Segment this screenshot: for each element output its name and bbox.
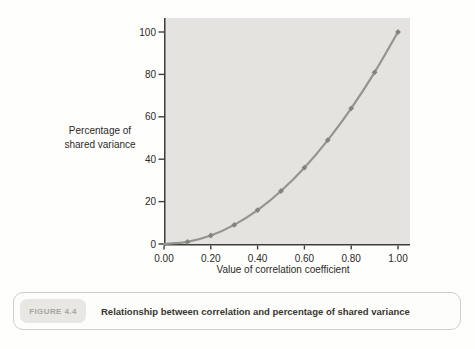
x-tick-label: 0.80 xyxy=(341,253,361,264)
figure-number-badge: FIGURE 4.4 xyxy=(20,299,86,323)
figure-panel: 0204060801000.000.200.400.600.801.00 Per… xyxy=(0,0,475,349)
x-axis-title: Value of correlation coefficient xyxy=(168,264,398,275)
y-tick-label: 40 xyxy=(145,154,157,165)
y-tick-label: 80 xyxy=(145,69,157,80)
plot-area xyxy=(164,18,410,245)
x-tick-label: 0.20 xyxy=(201,253,221,264)
y-tick-label: 20 xyxy=(145,196,157,207)
figure-caption-text: Relationship between correlation and per… xyxy=(101,293,452,329)
y-tick-label: 0 xyxy=(150,239,156,250)
y-tick-label: 100 xyxy=(139,27,156,38)
x-tick-label: 0.60 xyxy=(295,253,315,264)
x-tick-label: 0.40 xyxy=(248,253,268,264)
x-tick-label: 0.00 xyxy=(154,253,174,264)
y-axis-title: Percentage of shared variance xyxy=(30,124,170,152)
y-tick-label: 60 xyxy=(145,111,157,122)
figure-caption-box: FIGURE 4.4 Relationship between correlat… xyxy=(13,292,461,330)
x-tick-label: 1.00 xyxy=(388,253,408,264)
